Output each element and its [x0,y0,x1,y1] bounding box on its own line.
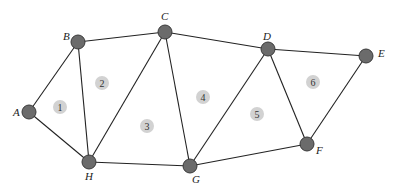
edge-C-G [165,32,190,166]
region-2: 2 [95,76,109,90]
region-4: 4 [196,90,210,104]
vertex-circle [183,159,197,173]
edge-B-C [78,32,165,42]
regions-layer: 123456 [53,75,320,133]
vertex-label: F [315,144,323,156]
edge-F-G [190,144,307,166]
node-E: E [359,47,385,63]
region-label: 6 [311,77,316,88]
region-5: 5 [250,107,264,121]
vertex-circle [82,155,96,169]
vertex-circle [359,49,373,63]
edge-B-H [78,42,89,162]
vertex-label: H [84,170,94,182]
region-label: 5 [255,109,260,120]
vertex-label: G [192,173,200,185]
node-C: C [158,10,172,39]
region-label: 1 [58,102,63,113]
edge-E-F [307,56,366,144]
edge-A-H [29,112,89,162]
node-F: F [300,137,323,156]
vertex-label: A [12,106,20,118]
graph-diagram: 123456 ABCDEFGH [0,0,395,196]
vertex-label: C [161,10,169,22]
region-label: 3 [145,121,150,132]
vertex-circle [158,25,172,39]
edge-C-H [89,32,165,162]
vertex-circle [261,42,275,56]
region-label: 4 [201,92,206,103]
edge-C-D [165,32,268,49]
region-label: 2 [100,78,105,89]
region-3: 3 [140,119,154,133]
edge-D-F [268,49,307,144]
node-B: B [63,30,85,49]
vertex-label: D [262,30,271,42]
edge-D-E [268,49,366,56]
node-A: A [12,105,36,119]
region-6: 6 [306,75,320,89]
node-H: H [82,155,96,182]
edge-H-G [89,162,190,166]
vertex-circle [300,137,314,151]
node-D: D [261,30,275,56]
region-1: 1 [53,100,67,114]
edge-A-B [29,42,78,112]
node-G: G [183,159,200,185]
vertex-circle [71,35,85,49]
vertex-circle [22,105,36,119]
vertex-label: B [63,30,70,42]
vertex-label: E [377,47,385,59]
